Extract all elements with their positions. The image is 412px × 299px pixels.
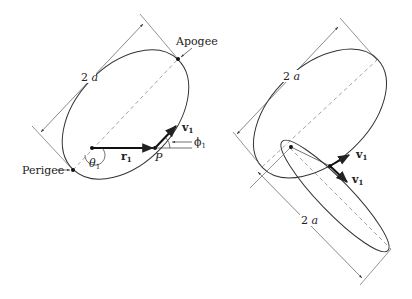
theta1-label: θ1: [89, 157, 100, 171]
velocity-vector-lower: [330, 166, 347, 182]
velocity-vector-v1: [155, 126, 176, 148]
apogee-point: [176, 57, 180, 61]
r1-label: r1: [121, 150, 132, 164]
right-dim-extension-top: [340, 18, 377, 60]
right-2a-label-bottom: 2 a: [301, 214, 318, 227]
right-major-axis-narrow: [290, 148, 391, 249]
left-dim-extension-top: [140, 14, 178, 59]
right-2a-label-top: 2 a: [283, 70, 300, 83]
left-orbit-figure: 2 a Apogee Perigee r1 P v1 ϕ1: [22, 14, 218, 203]
right-dim-extension-bottom: [233, 132, 262, 167]
right-radius-line: [291, 147, 330, 166]
right-orbit-figure: 2 a 2 a v1 v1: [229, 18, 410, 285]
apogee-pointer: [181, 48, 192, 57]
right-dim-extension-lower-b: [360, 249, 391, 285]
right-orbit-ellipse-narrow: [271, 130, 400, 262]
diagram-canvas: 2 a Apogee Perigee r1 P v1 ϕ1: [0, 0, 412, 299]
P-label: P: [154, 151, 163, 164]
apogee-label: Apogee: [175, 35, 218, 48]
left-2a-label: 2 a: [81, 71, 98, 84]
orbit-diagram: 2 a Apogee Perigee r1 P v1 ϕ1: [0, 0, 412, 299]
v1-label: v1: [181, 121, 193, 135]
phi1-label: ϕ1: [194, 136, 206, 150]
velocity-vector-upper: [330, 155, 349, 166]
right-dim-extension-lower-a: [250, 148, 290, 188]
v1-upper-label: v1: [355, 148, 367, 162]
perigee-point: [71, 168, 75, 172]
v1-lower-label: v1: [351, 173, 363, 187]
perigee-label: Perigee: [22, 164, 64, 177]
